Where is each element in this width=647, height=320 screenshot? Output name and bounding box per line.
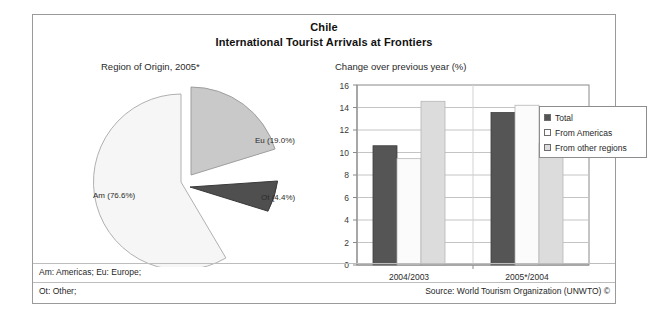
- bar-2005-total: [491, 113, 515, 265]
- bar-chart-legend: Total From Americas From other regions: [539, 106, 647, 158]
- bar-chart-title: Change over previous year (%): [335, 61, 466, 72]
- bar-2005-from-other-regions: [539, 144, 563, 266]
- legend-swatch-total-icon: [544, 114, 551, 121]
- y-axis: 0 2 4 6 8 10 12 14 16: [340, 81, 357, 271]
- legend-swatch-from-americas-icon: [544, 129, 551, 136]
- legend-swatch-from-other-regions-icon: [544, 144, 551, 151]
- legend-label-from-americas: From Americas: [555, 128, 612, 138]
- bar-2004-from-americas: [397, 159, 421, 265]
- figure-frame: Chile International Tourist Arrivals at …: [32, 14, 616, 304]
- y-tick-6: 6: [344, 193, 349, 203]
- y-tick-0: 0: [344, 260, 349, 270]
- legend-item-total: Total: [544, 110, 642, 125]
- x-category-label-1: 2004/2003: [389, 272, 429, 282]
- x-category-label-2: 2005*/2004: [505, 272, 549, 282]
- figure-main-title: Chile: [33, 21, 615, 33]
- legend-item-from-americas: From Americas: [544, 125, 642, 140]
- footer-divider-top: [33, 263, 615, 264]
- pie-chart-title: Region of Origin, 2005*: [101, 61, 200, 72]
- pie-chart-svg: [73, 77, 333, 267]
- y-tick-14: 14: [340, 103, 350, 113]
- footnote-abbreviations-line1: Am: Americas; Eu: Europe;: [39, 267, 141, 277]
- legend-label-total: Total: [555, 113, 573, 123]
- y-tick-8: 8: [344, 170, 349, 180]
- source-note: Source: World Tourism Organization (UNWT…: [425, 286, 610, 296]
- legend-item-from-other-regions: From other regions: [544, 140, 642, 155]
- y-tick-16: 16: [340, 81, 350, 91]
- y-tick-2: 2: [344, 238, 349, 248]
- pie-label-ot: Ot (4.4%): [261, 193, 295, 202]
- bar-2005-from-americas: [515, 105, 539, 265]
- y-tick-4: 4: [344, 215, 349, 225]
- pie-slice-eu: [191, 87, 275, 175]
- y-tick-10: 10: [340, 148, 350, 158]
- figure-sub-title: International Tourist Arrivals at Fronti…: [33, 36, 615, 48]
- legend-label-from-other-regions: From other regions: [555, 143, 627, 153]
- footnote-abbreviations-line2: Ot: Other;: [39, 286, 76, 296]
- bar-2004-from-other-regions: [421, 101, 445, 265]
- footer-divider-bottom: [33, 282, 615, 283]
- bar-2004-total: [373, 146, 397, 265]
- pie-chart: Am (76.6%) Eu (19.0%) Ot (4.4%): [73, 77, 333, 267]
- y-tick-12: 12: [340, 125, 350, 135]
- pie-label-eu: Eu (19.0%): [255, 136, 295, 145]
- pie-label-am: Am (76.6%): [93, 191, 135, 200]
